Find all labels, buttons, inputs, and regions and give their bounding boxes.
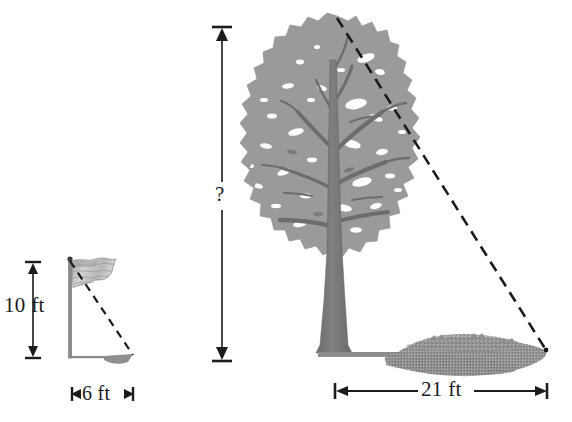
flag-pole-finial: [67, 256, 72, 261]
tree-shadow: [385, 333, 547, 376]
flag-shadow: [104, 354, 133, 364]
tree-shadow-tip-marker: [544, 348, 549, 353]
arrow-up-icon: [28, 263, 38, 274]
tree-illustration: [240, 13, 548, 376]
arrow-down-icon: [216, 347, 228, 360]
label-flagpole-height: 10 ft: [4, 295, 45, 316]
figure-canvas: [0, 0, 572, 422]
label-flagpole-shadow-length: 6 ft: [82, 383, 110, 403]
arrow-down-icon: [28, 346, 38, 357]
flag-pole: [69, 259, 72, 358]
similar-triangles-figure: 10 ft 6 ft ? 21 ft: [0, 0, 572, 422]
flagpole-illustration: [67, 256, 133, 363]
label-tree-shadow-length: 21 ft: [421, 379, 462, 400]
label-tree-height-unknown: ?: [215, 184, 224, 205]
arrow-up-icon: [216, 28, 228, 41]
arrow-right-icon: [535, 386, 547, 396]
